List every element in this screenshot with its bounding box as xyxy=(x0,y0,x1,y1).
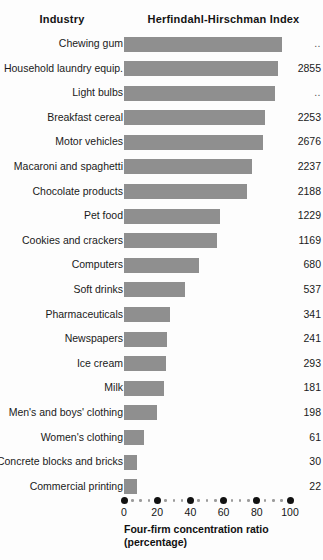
row-bar-track xyxy=(124,282,290,297)
row-bar xyxy=(124,455,137,470)
chart-row: Milk181 xyxy=(0,377,323,402)
row-hhi-value: 2855 xyxy=(291,62,321,74)
row-industry-label: Milk xyxy=(104,381,123,393)
row-industry-label: Commercial printing xyxy=(30,480,123,492)
row-bar-track xyxy=(124,479,290,494)
row-bar-track xyxy=(124,135,290,150)
row-bar-track xyxy=(124,258,290,273)
axis-tick-dot xyxy=(287,497,294,504)
row-bar-track xyxy=(124,405,290,420)
axis-tick-dot xyxy=(253,497,260,504)
row-bar xyxy=(124,86,275,101)
row-bar-track xyxy=(124,61,290,76)
axis-tick-dots xyxy=(124,497,290,506)
row-industry-label: Motor vehicles xyxy=(55,135,123,147)
row-industry-label: Macaroni and spaghetti xyxy=(14,160,123,172)
row-bar xyxy=(124,61,278,76)
row-industry-label: Pet food xyxy=(84,209,123,221)
axis-minor-dot xyxy=(206,499,209,502)
chart-row: Cookies and crackers1169 xyxy=(0,230,323,255)
axis-title-line1: Four-firm concentration ratio xyxy=(124,523,323,536)
row-bar-track xyxy=(124,209,290,224)
row-hhi-value: 2676 xyxy=(291,135,321,147)
row-bar xyxy=(124,37,282,52)
chart-rows: Chewing gum..Household laundry equip.285… xyxy=(0,33,323,500)
row-bar xyxy=(124,332,167,347)
row-bar-track xyxy=(124,37,290,52)
row-hhi-value: .. xyxy=(291,37,321,49)
axis-minor-dot xyxy=(197,499,200,502)
row-bar-track xyxy=(124,332,290,347)
row-industry-label: Pharmaceuticals xyxy=(45,308,123,320)
chart-row: Computers680 xyxy=(0,254,323,279)
axis-minor-dot xyxy=(131,499,134,502)
row-hhi-value: 241 xyxy=(291,332,321,344)
row-hhi-value: 1229 xyxy=(291,209,321,221)
axis-minor-dot xyxy=(148,499,151,502)
row-bar xyxy=(124,307,170,322)
row-industry-label: Newspapers xyxy=(65,332,123,344)
axis-minor-dot xyxy=(247,499,250,502)
row-industry-label: Chocolate products xyxy=(33,185,123,197)
row-industry-label: Men's and boys' clothing xyxy=(9,406,123,418)
axis-minor-dot xyxy=(239,499,242,502)
row-bar-track xyxy=(124,430,290,445)
chart-row: Newspapers241 xyxy=(0,328,323,353)
row-bar-track xyxy=(124,86,290,101)
column-header-hhi: Herfindahl-Hirschman Index xyxy=(124,13,323,25)
x-axis: 020406080100 Four-firm concentration rat… xyxy=(0,497,323,560)
chart-row: Pharmaceuticals341 xyxy=(0,304,323,329)
row-hhi-value: .. xyxy=(291,86,321,98)
chart-row: Motor vehicles2676 xyxy=(0,131,323,156)
row-bar-track xyxy=(124,307,290,322)
row-bar xyxy=(124,381,164,396)
axis-minor-dot xyxy=(139,499,142,502)
row-hhi-value: 30 xyxy=(291,455,321,467)
chart-row: Women's clothing61 xyxy=(0,427,323,452)
axis-minor-dot xyxy=(280,499,283,502)
axis-minor-dot xyxy=(264,499,267,502)
row-bar-track xyxy=(124,455,290,470)
row-bar-track xyxy=(124,233,290,248)
axis-tick-dot xyxy=(154,497,161,504)
chart-row: Soft drinks537 xyxy=(0,279,323,304)
row-hhi-value: 2188 xyxy=(291,185,321,197)
row-hhi-value: 198 xyxy=(291,406,321,418)
row-bar xyxy=(124,405,157,420)
axis-tick-labels: 020406080100 xyxy=(124,506,290,520)
chart-row: Household laundry equip.2855 xyxy=(0,58,323,83)
chart-row: Ice cream293 xyxy=(0,353,323,378)
axis-minor-dot xyxy=(164,499,167,502)
chart-row: Pet food1229 xyxy=(0,205,323,230)
row-bar xyxy=(124,282,185,297)
row-hhi-value: 2237 xyxy=(291,160,321,172)
row-industry-label: Breakfast cereal xyxy=(47,111,123,123)
row-bar-track xyxy=(124,184,290,199)
row-bar-track xyxy=(124,381,290,396)
row-bar xyxy=(124,209,220,224)
row-bar xyxy=(124,159,252,174)
row-bar-track xyxy=(124,110,290,125)
row-industry-label: Chewing gum xyxy=(59,37,123,49)
chart-page: Industry Herfindahl-Hirschman Index Chew… xyxy=(0,0,323,560)
row-industry-label: Soft drinks xyxy=(73,283,123,295)
row-industry-label: Computers xyxy=(72,258,123,270)
row-bar xyxy=(124,184,247,199)
row-hhi-value: 22 xyxy=(291,480,321,492)
row-bar xyxy=(124,233,217,248)
row-bar xyxy=(124,430,144,445)
chart-row: Breakfast cereal2253 xyxy=(0,107,323,132)
row-hhi-value: 61 xyxy=(291,431,321,443)
axis-minor-dot xyxy=(181,499,184,502)
row-bar xyxy=(124,479,137,494)
chart-row: Light bulbs.. xyxy=(0,82,323,107)
row-industry-label: Light bulbs xyxy=(72,86,123,98)
chart-row: Chewing gum.. xyxy=(0,33,323,58)
axis-minor-dot xyxy=(214,499,217,502)
row-bar-track xyxy=(124,159,290,174)
axis-minor-dot xyxy=(272,499,275,502)
row-hhi-value: 537 xyxy=(291,283,321,295)
row-bar xyxy=(124,110,265,125)
axis-minor-dot xyxy=(173,499,176,502)
row-industry-label: Ice cream xyxy=(77,357,123,369)
